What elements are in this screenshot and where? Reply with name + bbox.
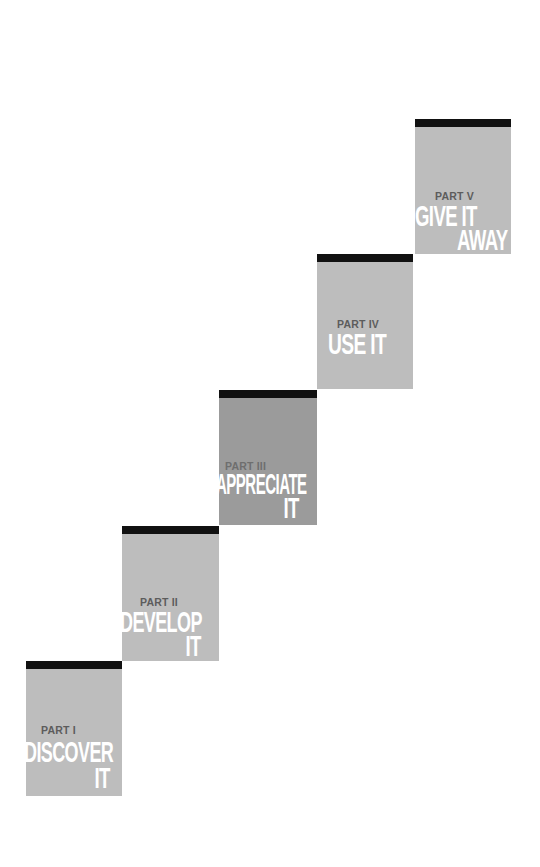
step-top-bar	[317, 254, 413, 262]
step-top-bar	[26, 661, 122, 669]
step-part-1: PART I DISCOVER IT	[26, 661, 122, 796]
part-heading-line2: IT	[186, 631, 201, 661]
step-top-bar	[219, 390, 317, 398]
part-heading-line1: USE IT	[328, 329, 386, 359]
part-heading-line2: AWAY	[457, 225, 508, 255]
step-part-5: PART V GIVE IT AWAY	[415, 119, 511, 254]
step-top-bar	[415, 119, 511, 127]
step-part-3: PART III APPRECIATE IT	[219, 390, 317, 525]
step-top-bar	[122, 526, 219, 534]
part-heading-line2: IT	[95, 763, 110, 793]
part-heading-line2: IT	[284, 493, 299, 523]
step-part-2: PART II DEVELOP IT	[122, 526, 219, 661]
step-part-4: PART IV USE IT	[317, 254, 413, 389]
